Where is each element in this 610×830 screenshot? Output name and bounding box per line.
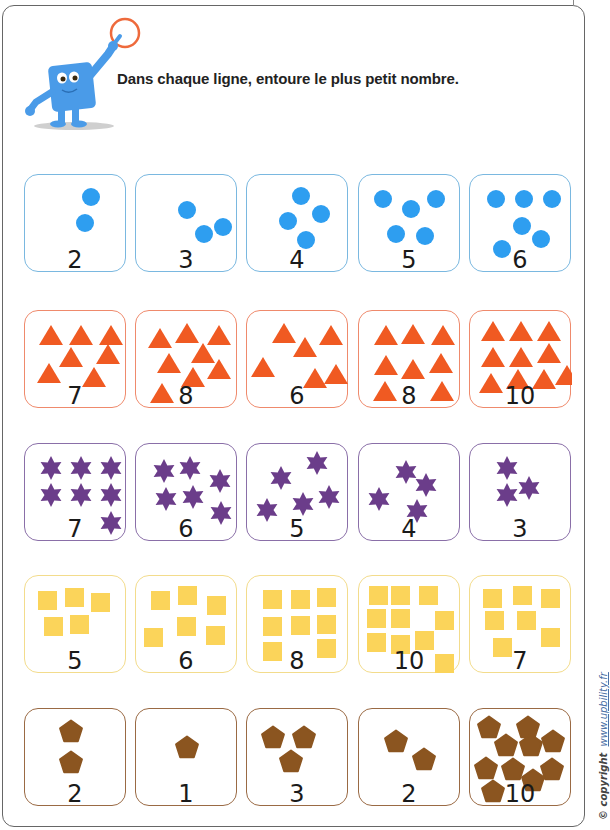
card-number[interactable]: 6 [247, 381, 347, 411]
number-card[interactable]: 10 [469, 310, 571, 408]
number-card[interactable]: 4 [246, 174, 348, 272]
number-card[interactable]: 8 [358, 310, 460, 408]
card-number[interactable]: 8 [247, 646, 347, 676]
copyright-notice: © copyright www.upbility.fr [598, 672, 609, 820]
card-number[interactable]: 4 [359, 514, 459, 544]
number-card[interactable]: 2 [24, 174, 126, 272]
copyright-label: © copyright [598, 753, 609, 820]
card-number[interactable]: 7 [470, 646, 570, 676]
number-card[interactable]: 8 [135, 310, 237, 408]
card-number[interactable]: 1 [136, 779, 236, 809]
number-card[interactable]: 6 [469, 174, 571, 272]
number-card[interactable]: 2 [358, 708, 460, 806]
card-number[interactable]: 10 [470, 779, 570, 809]
card-number[interactable]: 7 [25, 514, 125, 544]
card-number[interactable]: 7 [25, 381, 125, 411]
number-card[interactable]: 3 [135, 174, 237, 272]
card-number[interactable]: 3 [136, 245, 236, 275]
number-card[interactable]: 5 [246, 443, 348, 541]
card-number[interactable]: 3 [470, 514, 570, 544]
number-card[interactable]: 5 [24, 575, 126, 673]
card-number[interactable]: 5 [359, 245, 459, 275]
exercise-row-4-squares: 568107 [24, 575, 572, 673]
number-card[interactable]: 10 [469, 708, 571, 806]
exercise-row-2-triangles: 786810 [24, 310, 572, 408]
number-card[interactable]: 8 [246, 575, 348, 673]
card-number[interactable]: 6 [470, 245, 570, 275]
card-number[interactable]: 2 [359, 779, 459, 809]
card-number[interactable]: 6 [136, 646, 236, 676]
card-number[interactable]: 5 [247, 514, 347, 544]
number-card[interactable]: 6 [135, 575, 237, 673]
number-card[interactable]: 3 [246, 708, 348, 806]
card-number[interactable]: 2 [25, 245, 125, 275]
number-card[interactable]: 1 [135, 708, 237, 806]
number-card[interactable]: 4 [358, 443, 460, 541]
card-number[interactable]: 10 [359, 646, 459, 676]
card-number[interactable]: 6 [136, 514, 236, 544]
exercise-row-1-dots: 23456 [24, 174, 572, 272]
number-card[interactable]: 10 [358, 575, 460, 673]
number-card[interactable]: 6 [246, 310, 348, 408]
exercise-row-5-pentagons: 213210 [24, 708, 572, 806]
number-card[interactable]: 7 [24, 443, 126, 541]
number-card[interactable]: 6 [135, 443, 237, 541]
card-number[interactable]: 10 [470, 381, 570, 411]
number-card[interactable]: 5 [358, 174, 460, 272]
number-card[interactable]: 3 [469, 443, 571, 541]
copyright-site-link[interactable]: www.upbility.fr [598, 672, 609, 746]
page-edge-mark [573, 0, 574, 6]
card-number[interactable]: 8 [359, 381, 459, 411]
card-number[interactable]: 3 [247, 779, 347, 809]
card-number[interactable]: 5 [25, 646, 125, 676]
card-number[interactable]: 8 [136, 381, 236, 411]
card-number[interactable]: 2 [25, 779, 125, 809]
number-card[interactable]: 7 [469, 575, 571, 673]
number-card[interactable]: 2 [24, 708, 126, 806]
exercise-row-3-stars: 76543 [24, 443, 572, 541]
number-card[interactable]: 7 [24, 310, 126, 408]
instruction-text: Dans chaque ligne, entoure le plus petit… [117, 70, 459, 87]
card-number[interactable]: 4 [247, 245, 347, 275]
